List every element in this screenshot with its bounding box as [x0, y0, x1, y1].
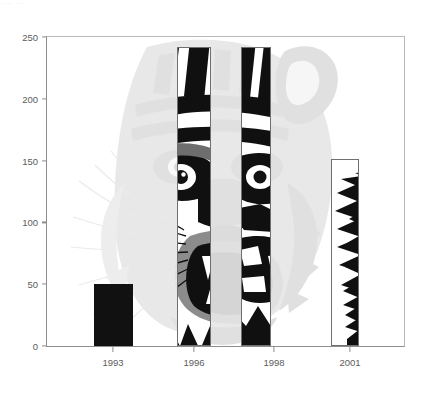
- plot-area: 0 50 100 150 200 250: [46, 36, 405, 347]
- tiger-head-image-bar-1998: [241, 47, 271, 346]
- x-tick-mark: [112, 346, 113, 352]
- y-tick-label: 0: [33, 341, 38, 352]
- x-tick-label: 1996: [183, 357, 204, 368]
- y-tick-mark: [42, 160, 47, 161]
- bar-1998[interactable]: [241, 47, 271, 346]
- bar-1993[interactable]: [94, 284, 133, 346]
- y-tick-mark: [42, 222, 47, 223]
- y-tick-label: 100: [22, 217, 38, 228]
- x-tick-mark: [193, 346, 194, 352]
- y-tick-label: 50: [27, 279, 38, 290]
- y-tick-mark: [42, 284, 47, 285]
- tiger-head-image-bar-1996: [177, 47, 211, 346]
- bar-2001[interactable]: [331, 159, 359, 346]
- y-tick-label: 200: [22, 93, 38, 104]
- y-tick-mark: [42, 36, 47, 37]
- x-tick-mark: [349, 346, 350, 352]
- x-tick-label: 1998: [263, 357, 284, 368]
- x-tick-label: 2001: [339, 357, 360, 368]
- y-tick-mark: [42, 98, 47, 99]
- bar-1996[interactable]: [177, 47, 211, 346]
- y-tick-label: 150: [22, 155, 38, 166]
- tiger-head-image-bar-2001: [331, 159, 359, 346]
- y-tick-mark: [42, 345, 47, 346]
- bar-chart: ···· ···: [0, 0, 421, 396]
- y-tick-label: 250: [22, 32, 38, 43]
- x-tick-mark: [273, 346, 274, 352]
- top-left-artifact-text: ···· ···: [2, 0, 52, 7]
- x-tick-label: 1993: [102, 357, 123, 368]
